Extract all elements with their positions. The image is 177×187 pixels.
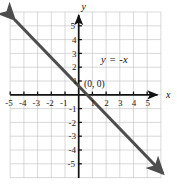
x-tick-label-5: 5 <box>145 99 150 108</box>
graph-figure: -5 -4 -3 -2 -1 1 2 3 4 5 5 4 3 2 1 -1 -2… <box>0 0 177 187</box>
x-tick-label-3: 3 <box>118 99 123 108</box>
y-tick-label-4: 4 <box>72 36 77 45</box>
y-tick-label--4: -4 <box>68 146 76 155</box>
x-tick-label--3: -3 <box>33 99 41 108</box>
x-tick-label-4: 4 <box>132 99 137 108</box>
y-tick-label-5: 5 <box>71 22 76 31</box>
equation-label: y = -x <box>101 55 128 66</box>
x-tick-label--2: -2 <box>46 99 54 108</box>
y-tick-label-3: 3 <box>72 50 77 59</box>
x-tick-label--4: -4 <box>19 99 27 108</box>
y-tick-label--1: -1 <box>69 105 77 114</box>
coordinate-plane <box>0 0 177 187</box>
y-axis-label: y <box>82 2 86 12</box>
y-tick-label-1: 1 <box>73 77 78 86</box>
x-tick-label--1: -1 <box>60 99 68 108</box>
origin-point-label: (0, 0) <box>84 80 105 90</box>
x-tick-label-2: 2 <box>104 99 109 108</box>
line-y-equals-negative-x <box>15 20 164 174</box>
x-tick-label-1: 1 <box>91 99 96 108</box>
y-tick-label--3: -3 <box>68 132 76 141</box>
x-tick-label--5: -5 <box>5 99 13 108</box>
y-tick-label--2: -2 <box>68 119 76 128</box>
y-tick-label--5: -5 <box>68 160 76 169</box>
x-axis-label: x <box>166 90 170 100</box>
y-tick-label-2: 2 <box>72 63 77 72</box>
